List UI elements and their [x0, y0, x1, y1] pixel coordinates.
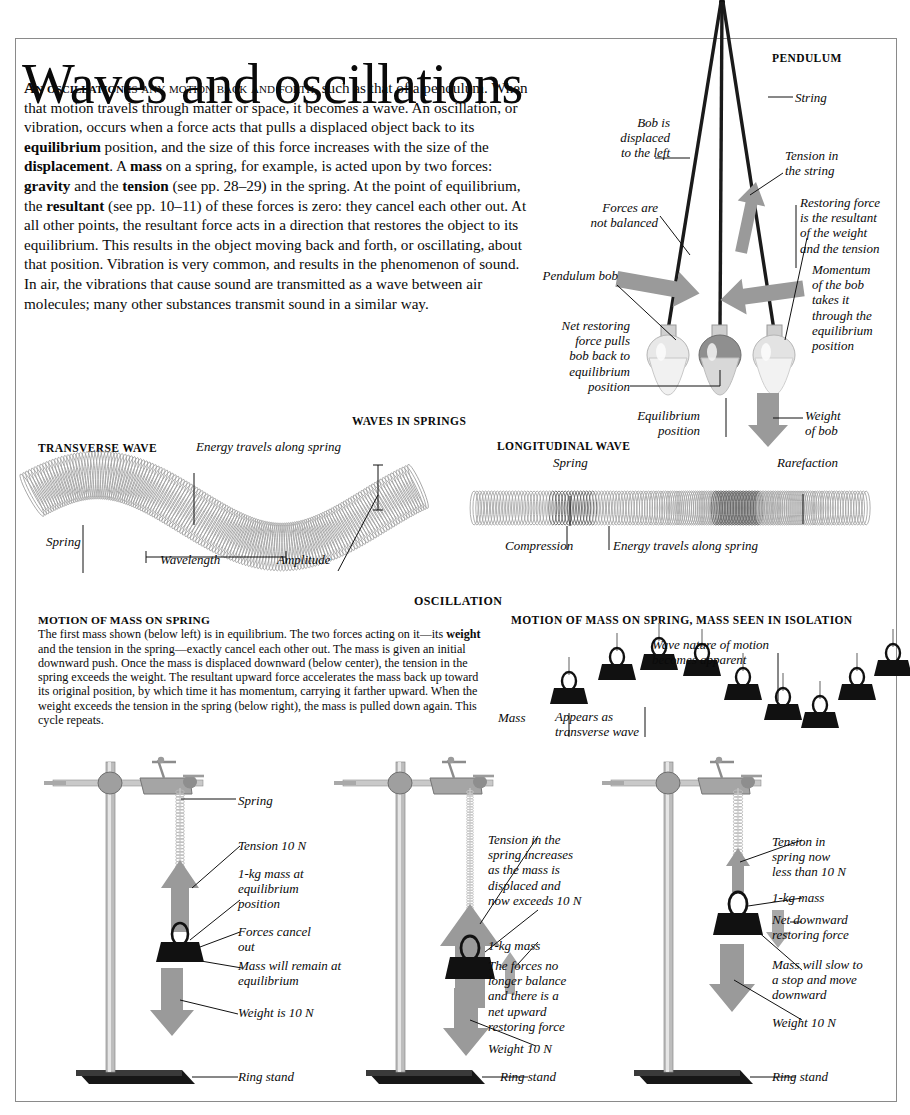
label-mass-right: 1-kg mass — [772, 890, 824, 905]
motion-of-mass-text: The first mass shown (below left) is in … — [38, 627, 483, 727]
label-spring-left: Spring — [238, 793, 273, 808]
left-restoring-arrow — [614, 261, 703, 311]
label-energy-longitudinal: Energy travels along spring — [613, 538, 758, 553]
label-ringstand-center: Ring stand — [500, 1069, 556, 1084]
intro-b6: resultant — [46, 197, 104, 214]
label-net-restoring-force: Net restoring force pulls bob back to eq… — [540, 318, 630, 394]
ring-stand-center — [330, 752, 620, 1097]
intro-paragraph: An oscillation is any motion back and fo… — [24, 78, 534, 313]
label-slow-right: Mass will slow to a stop and move downwa… — [772, 957, 897, 1003]
label-wavelength: Wavelength — [160, 552, 220, 567]
leader-tension-left — [192, 846, 240, 888]
tension-arrow-left — [161, 860, 199, 932]
pendulum-bob-left — [647, 325, 689, 395]
label-tension-right: Tension in spring now less than 10 N — [772, 834, 882, 880]
isolated-mass — [550, 657, 588, 704]
label-restoring-force: Restoring force is the resultant of the … — [800, 195, 905, 256]
mass-block-right — [713, 913, 763, 935]
label-forces-center: The forces no longer balance and there i… — [488, 958, 598, 1034]
mm-b-weight: weight — [446, 627, 480, 641]
label-compression: Compression — [505, 538, 573, 553]
oscillation-heading: OSCILLATION — [414, 594, 502, 609]
label-rarefaction: Rarefaction — [777, 455, 838, 470]
leader-forces-cancel-left — [192, 932, 240, 950]
label-tension-center: Tension in the spring increases as the m… — [488, 832, 608, 908]
label-weight-left: Weight is 10 N — [238, 1005, 314, 1020]
label-appears-as: Appears as transverse wave — [555, 709, 705, 739]
motion-of-mass-heading: MOTION OF MASS ON SPRING — [38, 613, 483, 627]
leader-remain-left — [195, 960, 242, 968]
tension-arrow — [727, 179, 769, 255]
retort-clamp-center — [430, 757, 494, 794]
label-wave-nature: Wave nature of motion becomes apparent — [652, 637, 832, 667]
label-mass: Mass — [498, 710, 525, 725]
retort-clamp-left — [140, 757, 204, 794]
longitudinal-wave-heading: LONGITUDINAL WAVE — [497, 440, 630, 452]
intro-t4: on a spring, for example, is acted upon … — [162, 157, 492, 174]
tension-arrow-right — [726, 848, 750, 892]
intro-b4: gravity — [24, 177, 70, 194]
label-mass-center: 1-kg mass — [488, 938, 540, 953]
mass-block-left — [156, 942, 204, 962]
motion-of-mass-block: MOTION OF MASS ON SPRING The first mass … — [38, 613, 483, 727]
label-spring-transverse: Spring — [46, 534, 81, 549]
isolated-mass — [764, 673, 802, 720]
intro-lead-caps: is any motion back and forth, — [124, 79, 318, 96]
isolated-mass — [838, 653, 876, 700]
label-momentum: Momentum of the bob takes it through the… — [812, 262, 900, 353]
mm-t2: and the tension in the spring—exactly ca… — [38, 642, 478, 727]
label-netdown-right: Net downward restoring force — [772, 912, 892, 942]
intro-b2: displacement — [24, 157, 109, 174]
mm-t1: The first mass shown (below left) is in … — [38, 627, 446, 641]
label-string: String — [795, 90, 827, 105]
intro-t3: . A — [109, 157, 130, 174]
intro-t2: position, and the size of this force inc… — [101, 138, 489, 155]
weight-arrow-right — [709, 944, 755, 1012]
label-ringstand-left: Ring stand — [238, 1069, 294, 1084]
leader-mass-left — [190, 900, 240, 940]
intro-b3: mass — [130, 157, 162, 174]
label-forces-not-balanced: Forces are not balanced — [578, 200, 658, 230]
stand-base-right — [634, 1070, 753, 1084]
isolated-mass — [874, 629, 910, 676]
retort-clamp-right — [698, 757, 762, 794]
transverse-wave-illustration — [26, 455, 426, 575]
label-pendulum-bob: Pendulum bob — [540, 268, 618, 283]
pendulum-string-right — [723, 2, 774, 330]
label-energy-transverse: Energy travels along spring — [196, 439, 341, 454]
intro-lead-bold: An oscillation — [24, 79, 124, 96]
label-ringstand-right: Ring stand — [772, 1069, 828, 1084]
intro-t5: and the — [70, 177, 122, 194]
intro-b1: equilibrium — [24, 138, 101, 155]
waves-in-springs-heading: WAVES IN SPRINGS — [352, 415, 466, 427]
label-weight-center: Weight 10 N — [488, 1041, 552, 1056]
mass-hook-right — [729, 892, 747, 916]
momentum-arrow — [718, 270, 806, 317]
label-bob-displaced: Bob is displaced to the left — [598, 115, 670, 161]
pendulum-bob-right — [753, 325, 795, 395]
pendulum-string-left — [668, 2, 721, 330]
isolated-mass — [801, 681, 839, 728]
label-weight-of-bob: Weight of bob — [805, 408, 875, 438]
label-amplitude: Amplitude — [277, 552, 330, 567]
label-tension-left: Tension 10 N — [238, 838, 306, 853]
stand-base-center — [366, 1070, 485, 1084]
label-equilibrium-position: Equilibrium position — [610, 408, 700, 438]
label-spring-longitudinal: Spring — [553, 455, 588, 470]
intro-b5: tension — [122, 177, 168, 194]
label-weight-right: Weight 10 N — [772, 1015, 836, 1030]
stand-base-left — [76, 1070, 195, 1084]
label-tension-in-string: Tension in the string — [785, 148, 875, 178]
isolated-mass — [598, 633, 636, 680]
weight-of-bob-arrow — [748, 393, 788, 447]
pendulum-string-center — [720, 2, 722, 330]
